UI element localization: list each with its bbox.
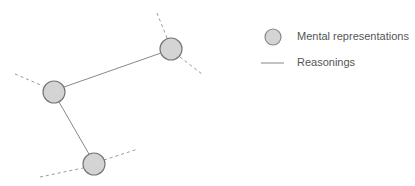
dashed-stub: [104, 149, 138, 160]
node-top-right: [160, 38, 182, 60]
legend-circle-icon: [265, 29, 281, 45]
node-left: [43, 81, 65, 103]
node-bottom: [83, 153, 105, 175]
reasoning-edges: [59, 53, 161, 154]
legend-label-reasonings: Reasonings: [297, 56, 355, 69]
dashed-stub: [157, 13, 167, 38]
dashed-stub: [15, 74, 43, 86]
dashed-stub: [180, 57, 202, 74]
legend-symbols: [261, 29, 284, 63]
dashed-stub: [40, 168, 83, 177]
edge-left-to-top-right: [64, 53, 161, 87]
mental-representation-nodes: [43, 38, 182, 175]
edge-left-to-bottom: [59, 102, 89, 154]
diagram-canvas: [0, 0, 415, 186]
legend-label-mental-representations: Mental representations: [297, 30, 409, 43]
